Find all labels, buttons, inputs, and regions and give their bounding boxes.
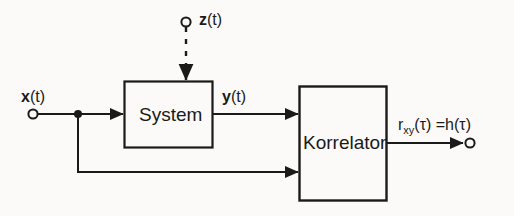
y-signal-label-var: y [222,88,231,105]
z-input-label: z(t) [199,12,222,28]
output-signal-label: rxy(τ) =h(τ) [398,117,471,136]
x-input-label-arg: (t) [30,88,45,105]
system-block-label: System [139,105,202,124]
z-input-label-arg: (t) [207,11,222,28]
x-input-label-var: x [21,88,30,105]
diagram-canvas [0,0,514,216]
x-input-terminal-icon [28,109,37,118]
y-signal-label-arg: (t) [231,88,246,105]
block-diagram-figure: System Korrelator x(t) z(t) y(t) rxy(τ) … [0,0,514,216]
output-signal-label-tail: (τ) =h(τ) [414,116,471,133]
output-terminal-icon [465,138,474,147]
output-signal-label-subscript: xy [403,124,414,136]
x-input-label: x(t) [21,89,45,105]
z-input-label-var: z [199,11,207,28]
y-signal-label: y(t) [222,89,246,105]
korrelator-block-label: Korrelator [303,133,386,152]
z-input-terminal-icon [181,17,190,26]
